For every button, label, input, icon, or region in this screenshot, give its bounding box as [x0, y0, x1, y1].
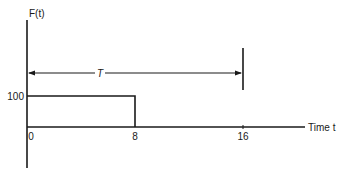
period-label: T — [97, 68, 104, 79]
tick-label-0: 0 — [28, 131, 34, 142]
arrowhead-left-icon — [28, 71, 35, 76]
x-axis-label: Time t — [308, 122, 336, 133]
tick-label-8: 8 — [132, 131, 138, 142]
arrowhead-right-icon — [235, 71, 242, 76]
tick-label-16: 16 — [237, 131, 249, 142]
pulse-line — [27, 96, 135, 127]
y-axis-label: F(t) — [29, 8, 45, 19]
tick-label-100: 100 — [7, 91, 24, 102]
pulse-chart: T F(t) Time t 100 0 8 16 — [0, 0, 348, 177]
